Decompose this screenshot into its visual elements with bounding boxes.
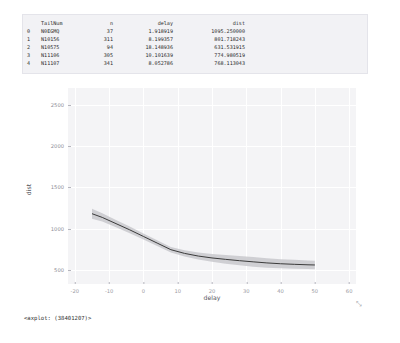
resize-handle-icon[interactable]: ⤡ <box>356 300 364 308</box>
y-tick-label: 2000 <box>51 143 68 149</box>
dataframe-output-block: TailNum n delay dist 0 N0EGMQ 37 1.91891… <box>22 14 368 74</box>
x-tick-label: 20 <box>209 284 216 294</box>
table-row: 4 N11107 341 8.052786 768.113043 <box>27 59 245 67</box>
cell-n: 341 <box>91 59 123 67</box>
column-header-dist: dist <box>185 19 245 27</box>
x-tick-label: 50 <box>312 284 319 294</box>
cell-tailnum: N0EGMQ <box>41 27 91 35</box>
y-axis-label: dist <box>25 184 32 195</box>
matplotlib-figure: dist delay 5001000150020002500 -20-10010… <box>22 78 368 310</box>
table-header-row: TailNum n delay dist <box>27 19 245 27</box>
repr-output-text: <axplot: (38401207)> <box>24 315 91 321</box>
y-tick-label: 500 <box>54 267 68 273</box>
cell-n: 311 <box>91 35 123 43</box>
y-tick-label: 1500 <box>51 184 68 190</box>
cell-dist: 801.718243 <box>185 35 245 43</box>
cell-dist: 768.113043 <box>185 59 245 67</box>
dataframe-table: TailNum n delay dist 0 N0EGMQ 37 1.91891… <box>27 19 245 68</box>
confidence-band <box>92 209 315 270</box>
cell-index: 3 <box>27 51 41 59</box>
cell-tailnum: N11106 <box>41 51 91 59</box>
cell-delay: 1.918919 <box>123 27 185 35</box>
x-tick-label: 30 <box>243 284 250 294</box>
cell-index: 2 <box>27 43 41 51</box>
cell-delay: 8.052786 <box>123 59 185 67</box>
cell-delay: 10.101639 <box>123 51 185 59</box>
y-tick-label: 2500 <box>51 102 68 108</box>
plot-axes: 5001000150020002500 -20-100102030405060 <box>68 88 356 284</box>
cell-index: 1 <box>27 35 41 43</box>
cell-n: 37 <box>91 27 123 35</box>
column-header-index <box>27 19 41 27</box>
cell-index: 4 <box>27 59 41 67</box>
cell-tailnum: N10156 <box>41 35 91 43</box>
line-plot-svg <box>68 88 356 284</box>
cell-index: 0 <box>27 27 41 35</box>
cell-dist: 1095.250000 <box>185 27 245 35</box>
table-row: 3 N11106 305 10.101639 774.980519 <box>27 51 245 59</box>
column-header-n: n <box>91 19 123 27</box>
x-tick-label: 10 <box>174 284 181 294</box>
cell-tailnum: N11107 <box>41 59 91 67</box>
cell-delay: 18.148936 <box>123 43 185 51</box>
table-row: 1 N10156 311 8.199357 801.718243 <box>27 35 245 43</box>
x-tick-label: -20 <box>71 284 79 294</box>
x-tick-label: 0 <box>142 284 145 294</box>
table-row: 2 N10575 94 18.148936 631.531915 <box>27 43 245 51</box>
cell-dist: 631.531915 <box>185 43 245 51</box>
cell-n: 305 <box>91 51 123 59</box>
cell-delay: 8.199357 <box>123 35 185 43</box>
x-tick-label: 60 <box>346 284 353 294</box>
x-tick-label: 40 <box>277 284 284 294</box>
y-tick-label: 1000 <box>51 226 68 232</box>
x-axis-label: delay <box>68 294 356 301</box>
x-tick-label: -10 <box>105 284 113 294</box>
cell-tailnum: N10575 <box>41 43 91 51</box>
column-header-delay: delay <box>123 19 185 27</box>
cell-dist: 774.980519 <box>185 51 245 59</box>
column-header-tailnum: TailNum <box>41 19 91 27</box>
table-row: 0 N0EGMQ 37 1.918919 1095.250000 <box>27 27 245 35</box>
cell-n: 94 <box>91 43 123 51</box>
